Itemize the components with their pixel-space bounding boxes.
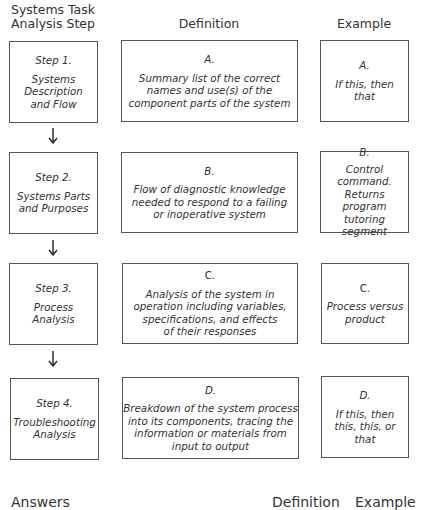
down-arrow-icon	[47, 351, 59, 367]
step-box-1: Step 1. Systems Description and Flow	[9, 41, 98, 123]
step-label: Step 1.	[35, 54, 72, 67]
step-box-3: Step 3. Process Analysis	[9, 263, 98, 345]
footer-example: Example	[355, 494, 416, 510]
step-box-2: Step 2. Systems Parts and Purposes	[9, 152, 98, 234]
example-text: Process versus product	[327, 300, 404, 325]
definition-label: D.	[205, 384, 216, 397]
definition-text: Analysis of the system in operation incl…	[133, 288, 286, 338]
step-box-4: Step 4. Troubleshooting Analysis	[10, 378, 99, 460]
down-arrow-icon	[47, 240, 59, 256]
step-text: Systems Parts and Purposes	[17, 190, 90, 215]
definition-text: Flow of diagnostic knowledge needed to r…	[132, 183, 287, 221]
step-label: Step 3.	[35, 282, 72, 295]
header-definition: Definition	[121, 17, 297, 31]
example-box-d: D. If this, then this, this, or that	[321, 376, 409, 458]
definition-label: B.	[204, 165, 214, 178]
step-label: Step 4.	[36, 397, 73, 410]
definition-label: A.	[204, 53, 215, 66]
example-text: If this, then this, this, or that	[334, 408, 395, 446]
footer-definition: Definition	[272, 494, 340, 510]
step-text: Troubleshooting Analysis	[13, 416, 96, 441]
step-text: Process Analysis	[32, 301, 74, 326]
example-box-a: A. If this, then that	[320, 40, 409, 122]
header-example: Example	[320, 17, 408, 31]
definition-box-c: C. Analysis of the system in operation i…	[122, 263, 298, 344]
definition-label: C.	[205, 269, 215, 282]
step-text: Systems Description and Flow	[24, 73, 83, 111]
definition-text: Breakdown of the system process into its…	[123, 402, 298, 452]
example-text: If this, then that	[335, 78, 394, 103]
definition-box-b: B. Flow of diagnostic knowledge needed t…	[121, 152, 298, 233]
definition-box-a: A. Summary list of the correct names and…	[121, 40, 298, 122]
footer-answers: Answers	[11, 494, 70, 510]
step-label: Step 2.	[35, 171, 72, 184]
header-step: Systems Task Analysis Step	[10, 3, 96, 31]
definition-box-d: D. Breakdown of the system process into …	[122, 377, 299, 459]
example-label: D.	[359, 389, 370, 402]
down-arrow-icon	[47, 128, 59, 144]
example-text: Control command. Returns program tutorin…	[321, 163, 408, 238]
example-label: B.	[359, 146, 369, 159]
example-box-c: C. Process versus product	[321, 263, 409, 344]
example-box-b: B. Control command. Returns program tuto…	[320, 151, 409, 233]
definition-text: Summary list of the correct names and us…	[129, 72, 291, 110]
example-label: A.	[359, 59, 370, 72]
example-label: C.	[360, 282, 370, 295]
